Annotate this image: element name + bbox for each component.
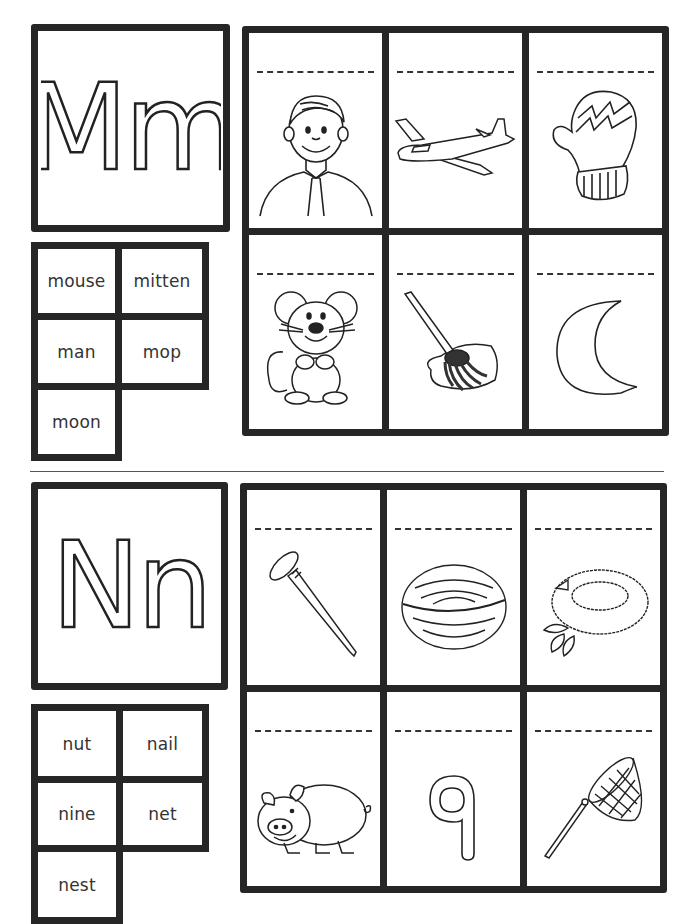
writing-line [537,273,654,275]
word-card[interactable]: mitten [115,242,209,320]
outline-letters-nn: Nn [40,531,220,641]
mitten-icon [546,88,646,208]
picture-cell-nut[interactable] [387,490,520,685]
picture-cell-mitten[interactable] [529,33,662,228]
picture-cell-mouse[interactable] [249,235,382,430]
picture-cell-moon[interactable] [529,235,662,430]
outline-letters-mm: Mm [41,73,221,183]
nail-icon [264,548,364,658]
picture-cell-pig[interactable] [247,692,380,887]
word-card[interactable]: nail [116,704,209,783]
picture-cell-net[interactable] [527,692,660,887]
section-divider [30,471,664,472]
number-nine-icon [424,772,484,862]
picture-grid-n [240,483,667,893]
picture-cell-nine[interactable] [387,692,520,887]
airplane-icon [392,115,520,185]
writing-line [535,730,652,732]
svg-text:Nn: Nn [51,531,209,641]
writing-line [257,273,374,275]
word-card[interactable]: man [31,313,122,390]
word-card[interactable]: net [116,776,209,852]
word-grid-m: mouse mitten man mop moon [31,242,211,462]
word-card[interactable]: mop [115,313,209,390]
nut-icon [399,562,509,652]
net-icon [539,754,649,864]
writing-line [397,273,514,275]
picture-cell-nail[interactable] [247,490,380,685]
letter-card-m: Mm [31,24,230,232]
picture-cell-airplane[interactable] [389,33,522,228]
mop-icon [401,290,511,410]
writing-line [257,71,374,73]
nest-icon [534,560,654,660]
picture-cell-nest[interactable] [527,490,660,685]
moon-icon [551,295,641,405]
pig-icon [254,777,374,857]
writing-line [255,528,372,530]
picture-cell-mop[interactable] [389,235,522,430]
word-card[interactable]: nine [31,776,123,852]
writing-line [537,71,654,73]
picture-grid-m [242,26,669,436]
mouse-icon [261,290,371,410]
word-card[interactable]: moon [31,383,122,461]
picture-cell-man[interactable] [249,33,382,228]
word-card[interactable]: nest [31,845,123,924]
word-card[interactable]: nut [31,704,123,783]
svg-text:Mm: Mm [41,73,221,183]
word-card[interactable]: mouse [31,242,122,320]
word-grid-n: nut nail nine net nest [31,704,211,924]
writing-line [535,528,652,530]
writing-line [255,730,372,732]
writing-line [397,71,514,73]
letter-card-n: Nn [31,482,228,690]
writing-line [395,730,512,732]
writing-line [395,528,512,530]
man-icon [256,88,376,218]
